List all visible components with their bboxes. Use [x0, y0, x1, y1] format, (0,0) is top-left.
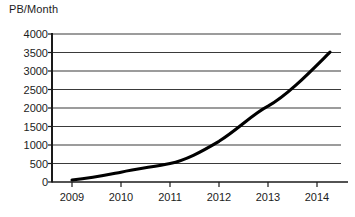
- x-tick-label-2011: 2011: [147, 191, 193, 203]
- x-tick-label-2014: 2014: [294, 191, 340, 203]
- x-axis-tick-labels: 2009 2010 2011 2012 2013 2014: [0, 0, 355, 217]
- x-tick-label-2009: 2009: [49, 191, 95, 203]
- x-tick-label-2012: 2012: [196, 191, 242, 203]
- x-tick-label-2010: 2010: [98, 191, 144, 203]
- x-tick-label-2013: 2013: [245, 191, 291, 203]
- chart-container: PB/Month: [0, 0, 355, 217]
